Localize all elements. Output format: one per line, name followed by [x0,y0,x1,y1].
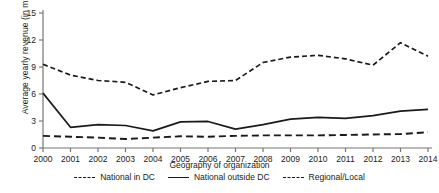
legend-label: Regional/Local [309,172,365,182]
y-tick-label: 9 [31,62,36,72]
y-axis-ticks: 03691215 [27,8,43,153]
y-tick-label: 15 [27,8,37,18]
legend-item-regional-local[interactable]: Regional/Local [283,172,365,182]
y-tick-label: 6 [31,89,36,99]
legend-item-national-outside-dc[interactable]: National outside DC [168,172,270,182]
y-tick-label: 12 [27,35,37,45]
x-axis-title: Geography of organization [0,160,439,170]
legend-label: National in DC [100,172,155,182]
legend-label: National outside DC [194,172,270,182]
chart-legend: National in DC National outside DC Regio… [0,172,439,182]
series-lines [43,43,428,139]
y-tick-label: 3 [31,116,36,126]
dashed-fine-line-swatch-icon [74,177,95,178]
y-tick-label: 0 [31,143,36,153]
dashed-wide-line-swatch-icon [283,177,304,178]
series-line-regional-local [43,132,428,139]
revenue-line-chart: Average yearly revenue (in millions) 036… [0,0,439,193]
solid-line-swatch-icon [168,177,189,178]
legend-item-national-in-dc[interactable]: National in DC [74,172,155,182]
series-line-national-in-dc [43,43,428,95]
series-line-national-outside-dc [43,93,428,131]
